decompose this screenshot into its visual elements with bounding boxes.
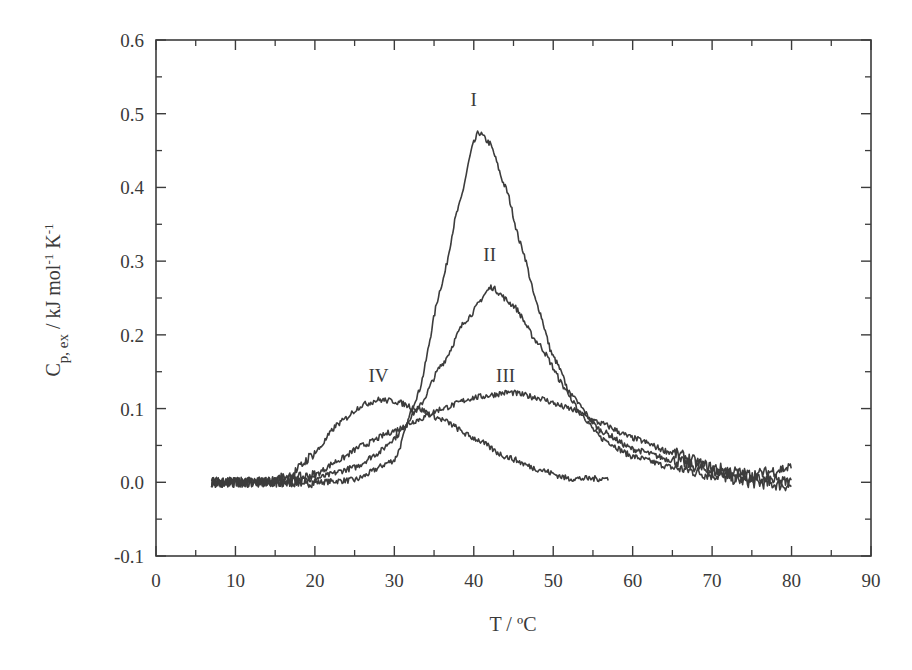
y-axis-title: Cp, ex / kJ mol-1 K-1: [41, 223, 72, 376]
curve-label-ii: II: [483, 244, 496, 265]
x-axis-title: T / ºC: [490, 613, 537, 635]
dsc-chart: 0102030405060708090 -0.10.00.10.20.30.40…: [0, 0, 912, 670]
y-tick-label: 0.1: [120, 399, 144, 420]
y-tick-label: 0.3: [120, 251, 144, 272]
curve-iii: [212, 390, 792, 487]
y-tick-label: 0.5: [120, 104, 144, 125]
y-tick-label: -0.1: [114, 546, 144, 567]
x-tick-label: 0: [151, 570, 161, 591]
x-tick-label: 40: [464, 570, 483, 591]
x-tick-label: 50: [544, 570, 563, 591]
y-tick-label: 0.4: [120, 177, 144, 198]
curve-labels: IIIIIIIV: [368, 89, 515, 386]
x-tick-label: 60: [623, 570, 642, 591]
x-tick-label: 90: [862, 570, 881, 591]
curve-label-iii: III: [496, 365, 515, 386]
x-tick-label: 70: [703, 570, 722, 591]
x-tick-label: 20: [305, 570, 324, 591]
y-tick-label: 0.0: [120, 472, 144, 493]
curves: [212, 131, 792, 491]
curve-label-i: I: [471, 89, 477, 110]
x-tick-label: 30: [385, 570, 404, 591]
y-tick-label: 0.2: [120, 325, 144, 346]
curve-label-iv: IV: [368, 365, 388, 386]
curve-i: [212, 131, 792, 491]
y-tick-label: 0.6: [120, 30, 144, 51]
x-tick-label: 10: [226, 570, 245, 591]
x-axis: 0102030405060708090: [151, 40, 880, 591]
x-tick-label: 80: [782, 570, 801, 591]
